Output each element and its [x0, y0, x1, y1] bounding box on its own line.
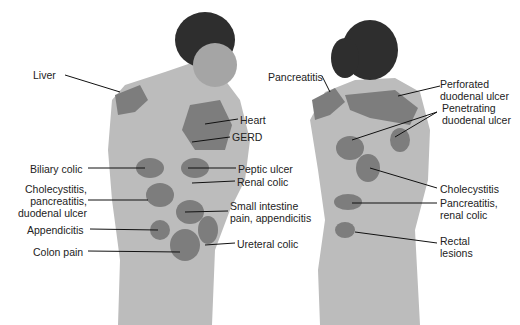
label-penetrating-duodenal-ulcer: Penetrating duodenal ulcer: [442, 102, 511, 126]
label-gerd: GERD: [232, 131, 262, 143]
label-liver: Liver: [33, 69, 56, 81]
label-rectal-lesions: Rectal lesions: [440, 235, 473, 259]
label-peptic-ulcer: Peptic ulcer: [238, 163, 293, 175]
label-heart: Heart: [240, 114, 266, 126]
label-pancreatitis-renal-colic: Pancreatitis, renal colic: [440, 197, 498, 221]
label-colon-pain: Colon pain: [33, 246, 83, 258]
label-pancreatitis-back: Pancreatitis: [268, 71, 323, 83]
label-biliary-colic: Biliary colic: [30, 163, 83, 175]
label-cholecystitis-back: Cholecystitis: [440, 183, 499, 195]
label-perforated-duodenal-ulcer: Perforated duodenal ulcer: [440, 78, 509, 102]
face-front: [193, 43, 237, 87]
label-ureteral-colic: Ureteral colic: [237, 238, 298, 250]
label-renal-colic: Renal colic: [237, 176, 288, 188]
label-appendicitis: Appendicitis: [27, 224, 84, 236]
back-figure: [310, 20, 430, 325]
label-small-intestine: Small intestine pain, appendicitis: [230, 200, 311, 224]
label-cholecystitis-front: Cholecystitis, pancreatitis, duodenal ul…: [18, 183, 87, 219]
